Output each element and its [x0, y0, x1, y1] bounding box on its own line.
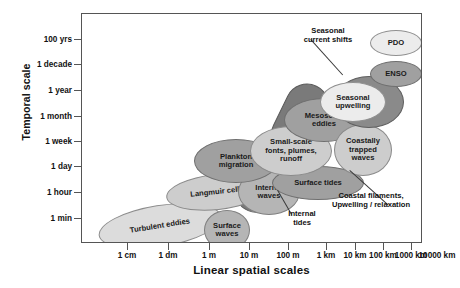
bubble-surface-tides-label: Surface tides — [275, 179, 361, 188]
plot-inner: Turbulent eddies Surface waves Langmuir … — [82, 14, 421, 242]
annotation-internal-tides: Internal tides — [274, 210, 330, 228]
bubble-pdo-label: PDO — [373, 39, 419, 48]
x-tick-label-10000-km: 10000 km — [402, 251, 460, 260]
bubble-turbulent-eddies-label: Turbulent eddies — [101, 213, 219, 240]
y-tick-label-1-min: 1 min — [8, 214, 72, 223]
y-tick-label-1-hour: 1 hour — [8, 188, 72, 197]
annotation-seasonal-current-shifts-line2: current shifts — [290, 36, 366, 45]
x-tick-mark-0 — [127, 243, 128, 250]
x-tick-mark-2 — [209, 243, 210, 250]
annotation-seasonal-current-shifts: Seasonal current shifts — [290, 27, 366, 45]
bubble-enso-label: ENSO — [373, 70, 419, 79]
bubble-seasonal-upwelling[interactable]: Seasonal upwelling — [320, 82, 386, 122]
bubble-enso[interactable]: ENSO — [370, 61, 421, 87]
x-tick-mark-3 — [249, 243, 250, 250]
x-tick-mark-5 — [326, 243, 327, 250]
bubble-coastally-trapped-waves[interactable]: Coastally trapped waves — [334, 124, 392, 176]
bubble-coastally-trapped-waves-label: Coastally trapped waves — [337, 137, 389, 163]
bubble-small-scale-fronts-label: Small-scale fonts, plumes, runoff — [253, 138, 329, 164]
bubble-surface-waves[interactable]: Surface waves — [204, 210, 250, 242]
y-tick-label-1-decade: 1 decade — [8, 60, 72, 69]
x-tick-mark-8 — [411, 243, 412, 250]
x-tick-mark-1 — [168, 243, 169, 250]
x-tick-mark-7 — [383, 243, 384, 250]
y-tick-label-1-year: 1 year — [8, 86, 72, 95]
bubble-pdo[interactable]: PDO — [370, 30, 421, 56]
x-axis-title: Linear spatial scales — [81, 264, 422, 276]
y-axis-title: Temporal scale — [20, 32, 32, 172]
x-tick-mark-6 — [355, 243, 356, 250]
annotation-coastal-filaments: Coastal filaments, Upwelling / relaxatio… — [318, 192, 421, 210]
bubble-surface-waves-label: Surface waves — [207, 222, 247, 239]
x-tick-mark-4 — [288, 243, 289, 250]
annotation-coastal-filaments-line2: Upwelling / relaxation — [318, 201, 421, 210]
y-tick-label-1-day: 1 day — [8, 162, 72, 171]
plot-area: Turbulent eddies Surface waves Langmuir … — [81, 13, 422, 243]
bubble-seasonal-upwelling-label: Seasonal upwelling — [323, 94, 383, 111]
annotation-internal-tides-line2: tides — [274, 219, 330, 228]
y-tick-label-1-week: 1 week — [8, 137, 72, 146]
y-tick-label-1-month: 1 month — [8, 112, 72, 121]
y-tick-label-100-yrs: 100 yrs — [8, 35, 72, 44]
